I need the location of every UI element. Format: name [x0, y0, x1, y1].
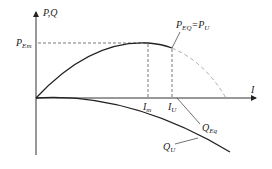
q-u-leader-line — [175, 138, 198, 144]
peak-label: PEQ=PU — [175, 19, 210, 32]
peak-leader-line — [172, 32, 180, 48]
q-eq-leader-line — [177, 98, 200, 124]
q-eq-label: QEq — [202, 122, 218, 135]
y-axis-label: P,Q — [42, 7, 58, 18]
pq-current-diagram: P,Q I PEm PEQ=PU Im IU QEq QU — [0, 0, 272, 169]
p-curve-extension — [172, 48, 226, 98]
x-axis-label: I — [250, 84, 255, 95]
q-curve — [36, 97, 230, 152]
q-u-label: QU — [163, 141, 176, 154]
i-u-label: IU — [167, 101, 177, 114]
p-em-label: PEm — [15, 37, 31, 50]
p-curve — [36, 43, 172, 98]
